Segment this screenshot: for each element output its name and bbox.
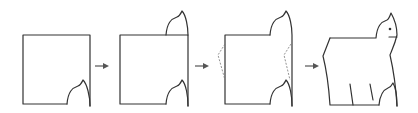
arrow-2 xyxy=(195,63,209,69)
step-4-cat xyxy=(323,13,397,106)
step-2-square xyxy=(120,11,188,106)
left-zigzag-cut xyxy=(218,44,225,80)
step-3-square xyxy=(218,11,292,106)
cat-eye xyxy=(389,28,392,31)
step-1-square xyxy=(23,35,90,106)
right-zigzag-cut xyxy=(284,44,291,80)
arrow-1 xyxy=(95,63,109,69)
diagram-canvas xyxy=(0,0,418,113)
arrow-3 xyxy=(305,63,319,69)
transformation-diagram xyxy=(0,0,418,113)
